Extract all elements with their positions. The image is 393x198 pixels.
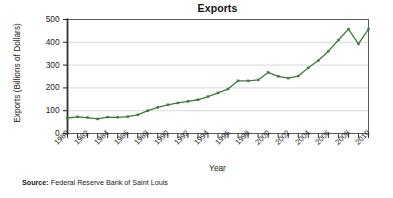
data-point-marker (247, 80, 250, 83)
data-point-marker (307, 67, 310, 70)
data-point-marker (367, 28, 370, 31)
y-axis-tick-label: 400 (34, 38, 60, 46)
data-point-marker (157, 106, 160, 109)
source-label: Source: (22, 178, 49, 187)
data-point-marker (187, 100, 190, 103)
data-point-marker (297, 75, 300, 78)
data-point-marker (136, 114, 139, 117)
data-point-marker (357, 43, 360, 46)
data-point-marker (317, 59, 320, 62)
data-series-exports (66, 28, 370, 120)
source-note: Source: Federal Reserve Bank of Saint Lo… (22, 178, 168, 187)
data-point-marker (237, 80, 240, 83)
y-axis-title: Exports (Billions of Dollars) (12, 8, 22, 138)
data-point-marker (147, 109, 150, 112)
source-text: Federal Reserve Bank of Saint Louis (49, 178, 168, 187)
data-point-marker (277, 75, 280, 78)
data-point-marker (197, 99, 200, 102)
data-point-marker (257, 79, 260, 82)
data-point-marker (96, 118, 99, 121)
chart-figure: Exports Exports (Billions of Dollars) Ye… (0, 0, 393, 198)
y-axis-tick-label: 300 (34, 61, 60, 69)
data-point-marker (106, 116, 109, 119)
data-point-marker (327, 50, 330, 53)
data-point-marker (287, 77, 290, 80)
data-point-marker (227, 88, 230, 91)
data-point-marker (217, 92, 220, 95)
y-axis-tick-label: 100 (34, 106, 60, 114)
data-point-marker (126, 115, 129, 118)
y-axis-tick-label: 500 (34, 15, 60, 23)
data-point-marker (267, 71, 270, 74)
x-axis-title: Year (67, 163, 368, 173)
y-axis-tick-label: 200 (34, 83, 60, 91)
data-point-marker (177, 102, 180, 105)
data-point-marker (116, 116, 119, 119)
plot-border (68, 20, 369, 134)
gridlines (68, 20, 369, 111)
data-point-marker (347, 28, 350, 31)
data-point-marker (76, 116, 79, 119)
data-point-marker (207, 95, 210, 98)
data-point-marker (167, 104, 170, 107)
data-point-marker (337, 39, 340, 42)
data-point-marker (86, 116, 89, 119)
chart-title: Exports (67, 2, 368, 14)
data-point-marker (66, 117, 69, 120)
